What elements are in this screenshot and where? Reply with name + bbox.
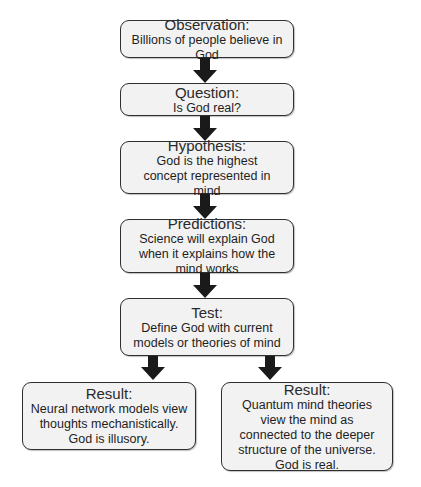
test-title: Test: bbox=[191, 304, 223, 321]
question-text: Is God real? bbox=[173, 101, 241, 116]
observation-title: Observation: bbox=[164, 16, 249, 33]
predictions-text: Science will explain God when it explain… bbox=[127, 232, 287, 277]
test-box: Test: Define God with current models or … bbox=[120, 298, 294, 356]
arrow-down-icon bbox=[193, 58, 217, 83]
hypothesis-box: Hypothesis: God is the highest concept r… bbox=[120, 141, 294, 194]
predictions-title: Predictions: bbox=[168, 215, 246, 232]
arrow-down-left-icon bbox=[141, 356, 165, 380]
result-right-title: Result: bbox=[284, 381, 331, 398]
result-right-text: Quantum mind theories view the mind as c… bbox=[228, 398, 386, 473]
observation-box: Observation: Billions of people believe … bbox=[120, 20, 294, 58]
hypothesis-text: God is the highest concept represented i… bbox=[127, 154, 287, 199]
predictions-box: Predictions: Science will explain God wh… bbox=[120, 219, 294, 273]
result-left-box: Result: Neural network models view thoug… bbox=[22, 382, 196, 450]
result-left-text: Neural network models view thoughts mech… bbox=[29, 402, 189, 447]
hypothesis-title: Hypothesis: bbox=[168, 137, 246, 154]
question-title: Question: bbox=[175, 84, 239, 101]
question-box: Question: Is God real? bbox=[120, 83, 294, 116]
result-left-title: Result: bbox=[86, 385, 133, 402]
arrow-down-right-icon bbox=[258, 356, 282, 380]
test-text: Define God with current models or theori… bbox=[127, 321, 287, 351]
arrow-down-icon bbox=[193, 273, 217, 298]
result-right-box: Result: Quantum mind theories view the m… bbox=[221, 382, 393, 471]
